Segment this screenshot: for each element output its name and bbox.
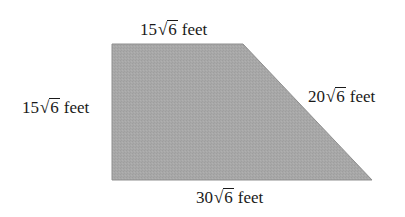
left-unit: feet xyxy=(64,98,89,117)
slant-side-label: 20√6feet xyxy=(308,87,375,106)
left-coefficient: 15 xyxy=(22,98,39,117)
sqrt-icon: √6 xyxy=(40,98,60,117)
sqrt-icon: √6 xyxy=(326,87,346,106)
top-side-label: 15√6feet xyxy=(140,20,207,39)
bottom-side-label: 30√6feet xyxy=(196,188,263,207)
slant-coefficient: 20 xyxy=(308,87,325,106)
slant-unit: feet xyxy=(350,87,375,106)
trapezoid-diagram: 15√6feet 15√6feet 20√6feet 30√6feet xyxy=(0,0,405,217)
bottom-coefficient: 30 xyxy=(196,188,213,207)
sqrt-icon: √6 xyxy=(158,20,178,39)
left-side-label: 15√6feet xyxy=(22,98,89,117)
top-coefficient: 15 xyxy=(140,20,157,39)
bottom-unit: feet xyxy=(238,188,263,207)
top-unit: feet xyxy=(182,20,207,39)
sqrt-icon: √6 xyxy=(214,188,234,207)
